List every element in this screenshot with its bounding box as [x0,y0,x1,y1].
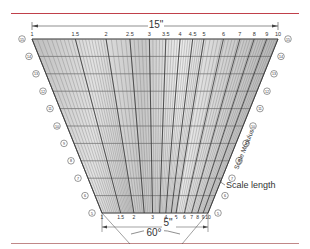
svg-text:12: 12 [265,90,269,94]
bottom-scale-tick: 8 [196,214,199,220]
row-marker-left: 7 [75,175,82,182]
row-marker-right: 11 [257,105,264,112]
top-scale-tick: 7 [238,31,241,37]
row-marker-right: 14 [278,53,285,60]
svg-text:10: 10 [251,125,255,129]
row-marker-left: 11 [47,105,54,112]
top-scale-tick: 4.5 [189,31,197,37]
svg-text:14: 14 [27,55,31,59]
bottom-dimension-label: 5" [163,217,173,228]
top-scale-tick: 4 [179,31,182,37]
svg-text:12: 12 [41,90,45,94]
svg-text:11: 11 [48,107,52,111]
top-dimension-label: 15" [149,19,164,30]
svg-text:10: 10 [55,125,59,129]
bottom-scale-tick: 6 [183,214,186,220]
row-marker-left: 10 [54,123,61,130]
top-scale-tick: 1.5 [71,31,79,37]
top-scale-tick: 9 [265,31,268,37]
svg-text:11: 11 [258,107,262,111]
top-scale-tick: 2.5 [126,31,134,37]
svg-text:7: 7 [77,177,79,181]
svg-text:15: 15 [20,38,24,42]
row-marker-right: 15 [285,36,292,43]
annotation-label: Scale length [226,180,276,190]
bottom-scale-tick: 3 [151,214,154,220]
row-marker-left: 9 [61,140,68,147]
bottom-scale-tick: 1.5 [117,214,124,220]
bottom-scale-tick: 2 [133,214,136,220]
svg-text:5: 5 [217,212,219,216]
row-marker-left: 13 [33,71,40,78]
top-scale-tick: 8 [253,31,256,37]
row-marker-right: 6 [222,192,229,199]
row-marker-left: 15 [19,36,26,43]
top-dimension: 15" [32,19,278,30]
row-marker-right: 10 [250,123,257,130]
svg-text:5: 5 [91,212,93,216]
svg-text:8: 8 [70,159,72,163]
row-marker-left: 8 [68,158,75,165]
top-scale-tick: 3 [148,31,151,37]
top-scale-tick: 5 [202,31,205,37]
top-scale-tick: 1 [30,31,33,37]
top-scale-tick: 10 [275,31,281,37]
top-scale-tick: 6 [222,31,225,37]
svg-text:15: 15 [286,38,290,42]
angle-label: 60° [146,227,161,238]
row-marker-left: 5 [89,210,96,217]
row-marker-right: 13 [271,71,278,78]
scale-fan-diagram: 11.522.533.544.55678910 11.52345678910 1… [0,0,310,249]
svg-text:13: 13 [272,72,276,76]
bottom-scale-tick: 7 [190,214,193,220]
row-marker-left: 6 [82,192,89,199]
svg-text:6: 6 [224,194,226,198]
row-marker-left: 14 [26,53,33,60]
svg-text:6: 6 [84,194,86,198]
top-scale-tick: 2 [105,31,108,37]
svg-text:13: 13 [34,72,38,76]
row-marker-right: 12 [264,88,271,95]
row-marker-left: 12 [40,88,47,95]
top-scale-tick: 3.5 [162,31,170,37]
svg-text:14: 14 [279,55,283,59]
row-marker-right: 5 [215,210,222,217]
svg-text:9: 9 [63,142,65,146]
